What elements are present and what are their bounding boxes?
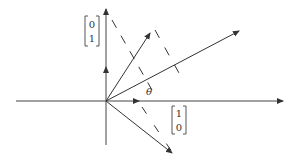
theta-label: θ bbox=[146, 86, 152, 97]
e2-label: 0 1 bbox=[85, 16, 99, 46]
svg-text:0: 0 bbox=[89, 19, 95, 30]
e2-arrowhead-icon bbox=[103, 66, 109, 73]
e1-arrowhead-icon bbox=[133, 98, 140, 104]
rotated-vector-upper bbox=[106, 33, 150, 101]
svg-text:0: 0 bbox=[176, 122, 182, 133]
rotated-vector-lower bbox=[106, 101, 172, 153]
diagram-canvas: 0 1 1 0 θ bbox=[0, 0, 297, 161]
e1-label: 1 0 bbox=[172, 106, 186, 134]
dashed-line-right bbox=[155, 30, 184, 82]
svg-text:1: 1 bbox=[89, 33, 95, 44]
rotated-vector-mid bbox=[106, 31, 239, 101]
svg-text:1: 1 bbox=[176, 108, 182, 119]
dashed-line-lower bbox=[142, 107, 172, 152]
